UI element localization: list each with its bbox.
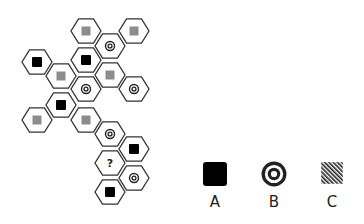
hex-cell bbox=[22, 108, 52, 132]
black-square-icon bbox=[105, 187, 115, 197]
gray-square-icon bbox=[57, 72, 66, 81]
hex-cell bbox=[119, 166, 149, 190]
hex-cell bbox=[46, 64, 76, 88]
gray-square-icon bbox=[130, 27, 139, 36]
gray-square-icon bbox=[82, 116, 91, 125]
option-label-c: C bbox=[317, 193, 347, 211]
hex-cell bbox=[71, 77, 101, 101]
target-icon bbox=[129, 173, 139, 183]
hex-cell bbox=[71, 19, 101, 43]
hex-cell bbox=[95, 34, 125, 58]
hex-cell bbox=[119, 137, 149, 161]
gray-square-icon bbox=[106, 71, 115, 80]
gray-square-icon bbox=[82, 27, 91, 36]
hex-cell bbox=[22, 50, 52, 74]
hex-cell bbox=[95, 63, 125, 87]
puzzle-board: ? bbox=[0, 0, 364, 224]
black-square-icon bbox=[32, 57, 42, 67]
hex-cell bbox=[95, 122, 125, 146]
hex-cell bbox=[71, 108, 101, 132]
black-square-icon bbox=[81, 55, 91, 65]
hex-cell: ? bbox=[95, 151, 125, 175]
black-square-icon bbox=[56, 100, 66, 110]
option-label-a: A bbox=[200, 193, 230, 211]
hex-cell bbox=[95, 180, 125, 204]
target-icon bbox=[129, 84, 139, 94]
black-square-icon bbox=[203, 162, 227, 186]
target-icon bbox=[262, 162, 287, 187]
target-icon bbox=[105, 41, 115, 51]
option-label-b: B bbox=[259, 193, 289, 211]
option-b[interactable] bbox=[262, 162, 287, 187]
option-a[interactable] bbox=[203, 162, 227, 186]
target-icon bbox=[81, 84, 91, 94]
question-mark: ? bbox=[107, 157, 113, 170]
hex-cell bbox=[119, 19, 149, 43]
hex-cell bbox=[119, 77, 149, 101]
hex-cell bbox=[71, 48, 101, 72]
hex-cell bbox=[46, 93, 76, 117]
hatched-square-icon bbox=[321, 162, 343, 184]
option-c[interactable] bbox=[321, 162, 343, 184]
gray-square-icon bbox=[33, 116, 42, 125]
black-square-icon bbox=[129, 144, 139, 154]
target-icon bbox=[105, 129, 115, 139]
